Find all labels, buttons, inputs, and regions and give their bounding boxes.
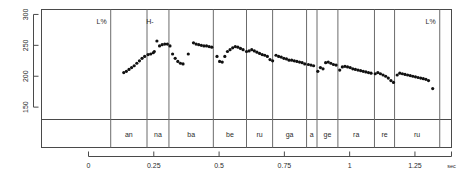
x-axis-tick-label: 1: [348, 162, 352, 169]
data-point: [176, 60, 179, 63]
data-point: [127, 68, 130, 71]
x-axis-tick-label: 0.5: [214, 162, 224, 169]
segment-label: re: [381, 131, 387, 138]
data-point: [334, 64, 337, 67]
data-point: [303, 62, 306, 65]
data-point: [174, 57, 177, 60]
data-point: [271, 59, 274, 62]
data-point: [210, 46, 213, 49]
data-point: [389, 79, 392, 82]
segment-label: ru: [256, 131, 262, 138]
segment-label: ru: [414, 131, 420, 138]
data-point: [316, 70, 319, 73]
tone-annotation-label: L%: [97, 18, 107, 25]
data-point: [155, 39, 158, 42]
x-axis-unit-label: sec: [447, 163, 456, 169]
chart-canvas: 150200250300 00.250.50.7511.25 annababer…: [0, 0, 473, 175]
chart-background: [0, 0, 473, 175]
data-point: [369, 72, 372, 75]
data-point: [228, 48, 231, 51]
segment-label: ga: [286, 131, 294, 139]
data-point: [221, 60, 224, 63]
y-axis-tick-label: 200: [23, 70, 30, 82]
data-point: [138, 59, 141, 62]
data-point: [338, 68, 341, 71]
segment-label: ra: [353, 131, 359, 138]
data-point: [187, 52, 190, 55]
data-point: [166, 43, 169, 46]
segment-label: na: [154, 131, 162, 138]
data-point: [140, 57, 143, 60]
data-point: [143, 55, 146, 58]
data-point: [392, 81, 395, 84]
segment-label: ge: [324, 131, 332, 139]
segment-label: ba: [187, 131, 195, 138]
data-point: [427, 79, 430, 82]
data-point: [133, 64, 136, 67]
segment-label: a: [310, 131, 314, 138]
data-point: [226, 50, 229, 53]
data-point: [135, 62, 138, 65]
data-point: [168, 44, 171, 47]
y-axis-tick-label: 300: [23, 9, 30, 21]
data-point: [171, 52, 174, 55]
data-point: [130, 66, 133, 69]
data-point: [181, 62, 184, 65]
pitch-contour-plot: 150200250300 00.250.50.7511.25 annababer…: [0, 0, 473, 175]
data-point: [384, 75, 387, 78]
segment-label: an: [125, 131, 133, 138]
data-point: [153, 50, 156, 53]
data-point: [223, 55, 226, 58]
data-point: [431, 87, 434, 90]
x-axis-tick-label: 0.25: [147, 162, 161, 169]
y-axis-tick-label: 250: [23, 39, 30, 51]
data-point: [125, 70, 128, 73]
x-axis-tick-label: 0.75: [278, 162, 292, 169]
data-point: [215, 55, 218, 58]
x-axis-tick-label: 0: [87, 162, 91, 169]
data-point: [266, 55, 269, 58]
segment-label: be: [226, 131, 234, 138]
tone-annotation-label: H-: [146, 18, 154, 25]
x-axis-tick-label: 1.25: [408, 162, 422, 169]
data-point: [321, 67, 324, 70]
data-point: [242, 48, 245, 51]
tone-annotation-label: L%: [426, 18, 436, 25]
data-point: [312, 64, 315, 67]
data-point: [396, 73, 399, 76]
data-point: [387, 76, 390, 79]
y-axis-tick-label: 150: [23, 101, 30, 113]
